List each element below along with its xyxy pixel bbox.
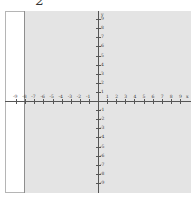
y-tick-label: 9 bbox=[101, 17, 104, 22]
x-axis-label: x bbox=[186, 95, 189, 100]
y-tick-label: -5 bbox=[100, 145, 104, 150]
y-tick-label: 2 bbox=[101, 81, 104, 86]
x-tick-label: 3 bbox=[124, 95, 127, 100]
x-tick-mark bbox=[162, 99, 163, 104]
y-tick-label: -2 bbox=[100, 117, 104, 122]
x-tick-mark bbox=[153, 99, 154, 104]
x-tick-label: -2 bbox=[77, 95, 81, 100]
x-tick-mark bbox=[144, 99, 145, 104]
y-tick-label: 6 bbox=[101, 44, 104, 49]
x-tick-mark bbox=[25, 99, 26, 104]
x-tick-mark bbox=[180, 99, 181, 104]
x-tick-label: 7 bbox=[161, 95, 164, 100]
y-tick-label: -3 bbox=[100, 126, 104, 131]
x-tick-label: -3 bbox=[68, 95, 72, 100]
x-tick-label: -9 bbox=[13, 95, 17, 100]
y-tick-label: 8 bbox=[101, 26, 104, 31]
x-tick-label: 2 bbox=[115, 95, 118, 100]
x-tick-label: -1 bbox=[86, 95, 90, 100]
x-tick-mark bbox=[125, 99, 126, 104]
y-tick-label: -7 bbox=[100, 163, 104, 168]
y-tick-label: -4 bbox=[100, 135, 104, 140]
x-tick-label: 1 bbox=[106, 95, 109, 100]
x-tick-mark bbox=[116, 99, 117, 104]
y-tick-label: 3 bbox=[101, 72, 104, 77]
x-tick-label: -7 bbox=[31, 95, 35, 100]
y-tick-label: 1 bbox=[101, 90, 104, 95]
x-tick-mark bbox=[16, 99, 17, 104]
y-tick-label: -6 bbox=[100, 154, 104, 159]
problem-number: 2 bbox=[36, 0, 44, 8]
y-tick-label: -8 bbox=[100, 172, 104, 177]
x-tick-label: 4 bbox=[133, 95, 136, 100]
x-tick-label: -8 bbox=[22, 95, 26, 100]
x-tick-label: -5 bbox=[50, 95, 54, 100]
x-tick-mark bbox=[89, 99, 90, 104]
x-tick-mark bbox=[134, 99, 135, 104]
x-tick-label: 9 bbox=[179, 95, 182, 100]
x-tick-mark bbox=[171, 99, 172, 104]
y-axis bbox=[98, 11, 99, 193]
x-tick-label: -6 bbox=[40, 95, 44, 100]
x-tick-mark bbox=[62, 99, 63, 104]
x-tick-label: -4 bbox=[59, 95, 63, 100]
y-tick-label: -9 bbox=[100, 181, 104, 186]
y-tick-label: 5 bbox=[101, 54, 104, 59]
x-tick-label: 6 bbox=[152, 95, 155, 100]
y-tick-label: 4 bbox=[101, 63, 104, 68]
y-tick-label: 7 bbox=[101, 35, 104, 40]
x-tick-label: 8 bbox=[170, 95, 173, 100]
x-tick-mark bbox=[107, 99, 108, 104]
y-tick-label: -1 bbox=[100, 108, 104, 113]
x-tick-mark bbox=[43, 99, 44, 104]
x-tick-label: 5 bbox=[143, 95, 146, 100]
x-tick-mark bbox=[71, 99, 72, 104]
x-tick-mark bbox=[53, 99, 54, 104]
x-tick-mark bbox=[34, 99, 35, 104]
x-tick-mark bbox=[80, 99, 81, 104]
